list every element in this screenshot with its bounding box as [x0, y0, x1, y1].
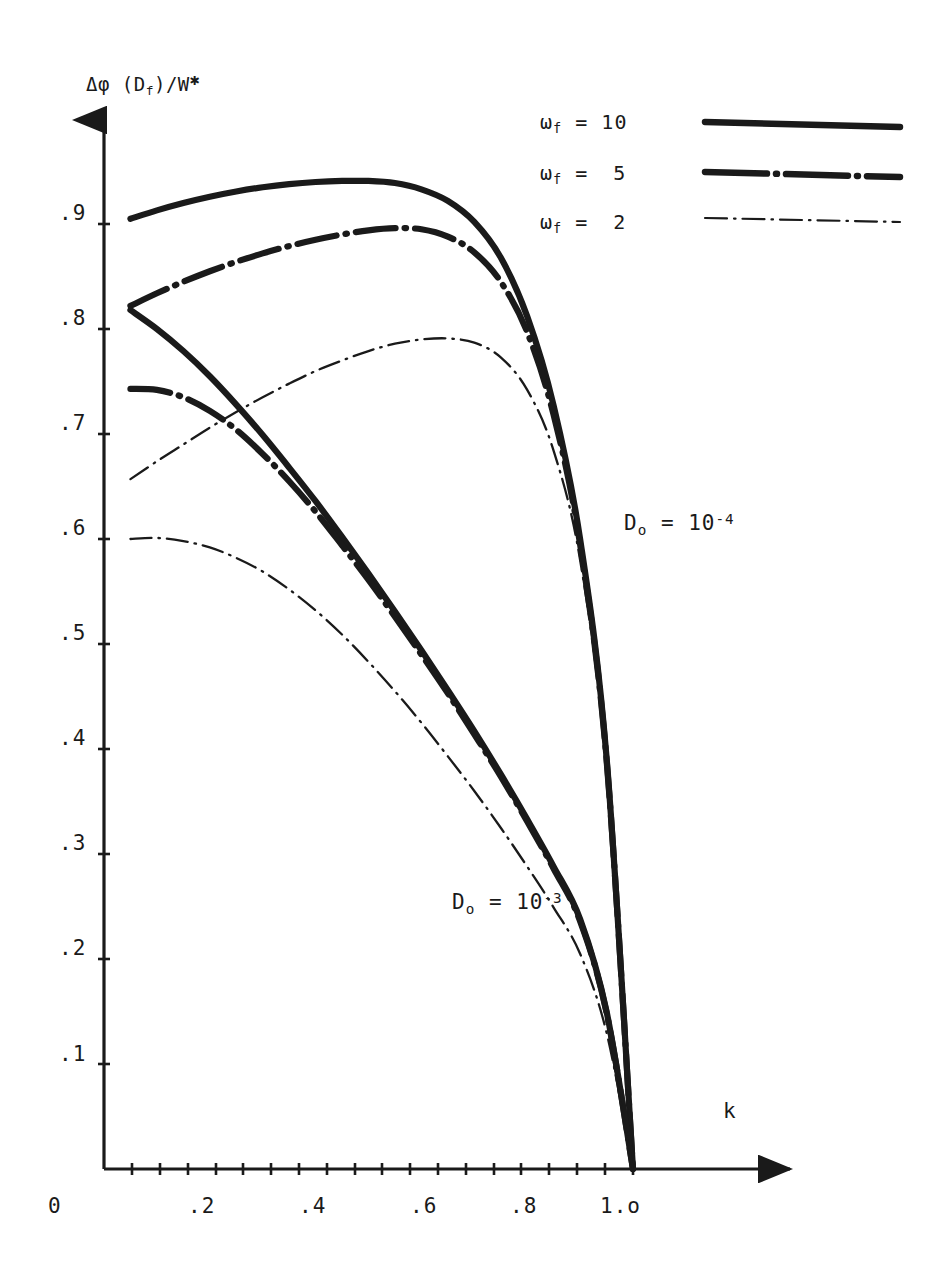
legend-swatch-omega-2 [705, 218, 900, 222]
plot-canvas [0, 0, 939, 1277]
figure-root: Δφ (Df)/W✱ k 0 .2 .4 .6 .8 1.o .1 .2 .3 … [0, 0, 939, 1277]
curve-4 [130, 389, 633, 1169]
axes-group [104, 120, 790, 1169]
legend-swatch-omega-10 [705, 122, 900, 127]
legend-swatch-omega-5 [705, 172, 900, 177]
legend-swatches [705, 122, 900, 222]
curve-2 [130, 338, 633, 1169]
curve-5 [130, 538, 633, 1169]
data-curves-group [130, 181, 633, 1169]
